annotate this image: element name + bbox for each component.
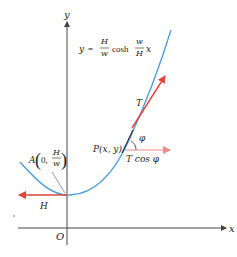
point-A-x: 0, xyxy=(41,155,48,165)
catenary-equation: y = H w cosh w H x xyxy=(78,37,151,58)
point-P-label: P(x, y) xyxy=(92,144,122,154)
point-A-frac-den: w xyxy=(53,159,60,168)
eq-frac1-den: w xyxy=(101,49,108,58)
point-A-frac-num: H xyxy=(52,148,61,157)
stray-dot xyxy=(13,215,15,217)
eq-lhs: y xyxy=(78,44,85,54)
eq-func: cosh xyxy=(112,44,129,54)
point-A-leader-line xyxy=(52,172,65,193)
origin-label: O xyxy=(56,231,64,242)
H-label: H xyxy=(39,201,48,211)
eq-frac1-num: H xyxy=(100,37,109,46)
eq-frac2-num: w xyxy=(136,37,143,46)
tension-label: T xyxy=(136,98,143,108)
angle-label: φ xyxy=(139,133,146,143)
eq-var: x xyxy=(146,44,151,54)
catenary-diagram: x y O T T cos φ φ P(x, y) H A ( 0, H w )… xyxy=(0,0,237,257)
catenary-curve xyxy=(20,30,171,195)
eq-equals: = xyxy=(88,44,93,54)
point-A-close-paren: ) xyxy=(61,150,67,171)
x-axis-label: x xyxy=(229,223,235,234)
angle-arc xyxy=(131,141,136,150)
y-axis-label: y xyxy=(63,9,70,20)
point-A-label: A ( 0, H w ) xyxy=(28,148,67,171)
eq-frac2-den: H xyxy=(135,49,144,58)
horizontal-component-label: T cos φ xyxy=(126,154,160,164)
